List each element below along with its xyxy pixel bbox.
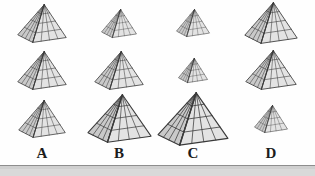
pyramid-d-row3 bbox=[254, 105, 288, 133]
pyramid-cell-c-1 bbox=[148, 0, 238, 46]
pyramid-a-row1 bbox=[17, 4, 67, 43]
column-label-a: A bbox=[22, 143, 62, 163]
pyramid-cell-d-2 bbox=[226, 46, 315, 94]
column-label-d: D bbox=[251, 143, 291, 163]
figure-canvas: ABCD bbox=[0, 0, 315, 176]
pyramid-c-row2 bbox=[178, 58, 208, 83]
column-label-b: B bbox=[99, 143, 139, 163]
pyramid-a-row2 bbox=[17, 51, 67, 90]
bottom-band-shade bbox=[0, 166, 315, 169]
pyramid-cell-d-1 bbox=[226, 0, 315, 46]
pyramid-b-row3 bbox=[87, 94, 152, 143]
pyramid-cell-d-3 bbox=[226, 94, 315, 143]
pyramid-b-row1 bbox=[101, 9, 137, 38]
pyramid-d-row1 bbox=[244, 2, 298, 44]
column-label-c: C bbox=[173, 143, 213, 163]
pyramid-c-row1 bbox=[176, 9, 210, 37]
pyramid-cell-c-3 bbox=[148, 94, 238, 143]
pyramid-cell-c-2 bbox=[148, 46, 238, 94]
pyramid-grid bbox=[0, 0, 315, 143]
column-label-row: ABCD bbox=[0, 143, 315, 166]
pyramid-c-row3 bbox=[157, 92, 229, 146]
pyramid-d-row2 bbox=[245, 50, 297, 90]
pyramid-b-row2 bbox=[94, 51, 144, 90]
pyramid-a-row3 bbox=[18, 100, 66, 138]
